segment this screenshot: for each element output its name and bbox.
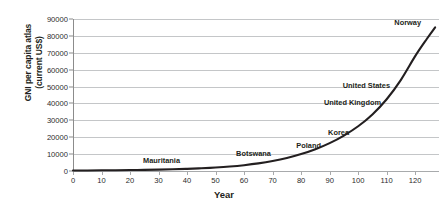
annotation-label: Mauritania bbox=[143, 156, 180, 165]
annotation-label: United Kingdom bbox=[324, 98, 381, 107]
x-axis-title: Year bbox=[0, 189, 448, 200]
x-tick-mark bbox=[387, 171, 388, 175]
y-tick-label: 60000 bbox=[47, 65, 68, 74]
x-tick-mark bbox=[273, 171, 274, 175]
chart-container: GNI per capita atlas (current US$) 01000… bbox=[0, 0, 448, 208]
annotation-label: Botswana bbox=[236, 149, 271, 158]
x-tick-label: 80 bbox=[297, 176, 305, 185]
gridline bbox=[74, 19, 439, 20]
x-tick-mark bbox=[330, 171, 331, 175]
y-tick-label: 10000 bbox=[47, 150, 68, 159]
x-tick-mark bbox=[216, 171, 217, 175]
y-tick-label: 90000 bbox=[47, 15, 68, 24]
x-tick-label: 90 bbox=[325, 176, 333, 185]
x-tick-mark bbox=[130, 171, 131, 175]
x-tick-label: 40 bbox=[183, 176, 191, 185]
gridline bbox=[74, 103, 439, 104]
x-tick-label: 100 bbox=[352, 176, 365, 185]
y-tick-label: 40000 bbox=[47, 99, 68, 108]
gridline bbox=[74, 120, 439, 121]
x-tick-label: 120 bbox=[409, 176, 422, 185]
x-tick-label: 60 bbox=[240, 176, 248, 185]
x-tick-label: 20 bbox=[126, 176, 134, 185]
y-tick-label: 80000 bbox=[47, 31, 68, 40]
x-tick-label: 50 bbox=[211, 176, 219, 185]
y-tick-label: 30000 bbox=[47, 116, 68, 125]
x-tick-mark bbox=[159, 171, 160, 175]
annotation-label: United States bbox=[343, 81, 390, 90]
gridline bbox=[74, 36, 439, 37]
y-tick-label: 70000 bbox=[47, 48, 68, 57]
y-tick-label: 50000 bbox=[47, 82, 68, 91]
x-tick-label: 30 bbox=[154, 176, 162, 185]
x-tick-mark bbox=[187, 171, 188, 175]
x-tick-mark bbox=[358, 171, 359, 175]
x-tick-mark bbox=[301, 171, 302, 175]
y-axis-tick-labels: 0100002000030000400005000060000700008000… bbox=[0, 0, 73, 208]
gridline bbox=[74, 70, 439, 71]
x-tick-mark bbox=[102, 171, 103, 175]
x-tick-label: 10 bbox=[97, 176, 105, 185]
annotation-label: Poland bbox=[296, 141, 321, 150]
x-tick-label: 110 bbox=[381, 176, 393, 185]
x-tick-mark bbox=[415, 171, 416, 175]
gridline bbox=[74, 137, 439, 138]
x-tick-label: 0 bbox=[71, 176, 75, 185]
x-tick-label: 70 bbox=[268, 176, 276, 185]
x-axis-line bbox=[73, 171, 438, 172]
annotation-label: Norway bbox=[394, 18, 421, 27]
x-tick-mark bbox=[244, 171, 245, 175]
y-tick-label: 20000 bbox=[47, 133, 68, 142]
y-tick-label: 0 bbox=[64, 167, 68, 176]
gridline bbox=[74, 53, 439, 54]
x-tick-mark bbox=[73, 171, 74, 175]
annotation-label: Korea bbox=[328, 128, 349, 137]
